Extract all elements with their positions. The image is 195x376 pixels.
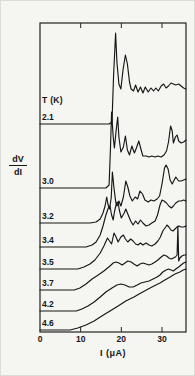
curve-2.1K: [40, 33, 186, 124]
figure-scan: 01020302.13.03.23.43.53.74.24.6 dV dI T …: [0, 0, 195, 376]
y-axis-label: dV dI: [7, 154, 29, 177]
curve-label-3.0K: 3.0: [42, 176, 54, 186]
curve-label-3.5K: 3.5: [42, 257, 54, 267]
x-tick-label-10: 10: [76, 334, 86, 344]
series-header-label: T (K): [42, 95, 63, 105]
y-axis-label-denominator: dI: [7, 167, 29, 177]
curve-label-3.2K: 3.2: [42, 211, 54, 221]
curve-label-4.2K: 4.2: [42, 299, 54, 309]
fraction-bar: [9, 165, 27, 166]
x-tick-label-0: 0: [38, 334, 43, 344]
x-tick-label-20: 20: [117, 334, 127, 344]
curve-label-3.7K: 3.7: [42, 278, 54, 288]
curve-3.2K: [40, 165, 186, 223]
curve-label-2.1K: 2.1: [42, 112, 54, 122]
y-axis-label-numerator: dV: [7, 154, 29, 164]
x-tick-label-30: 30: [157, 334, 167, 344]
chart-canvas: 01020302.13.03.23.43.53.74.24.6: [0, 0, 195, 376]
curve-label-3.4K: 3.4: [42, 235, 54, 245]
curve-label-4.6K: 4.6: [42, 318, 54, 328]
curve-4.6K: [40, 269, 186, 330]
x-axis-label: I (μA): [40, 348, 186, 358]
